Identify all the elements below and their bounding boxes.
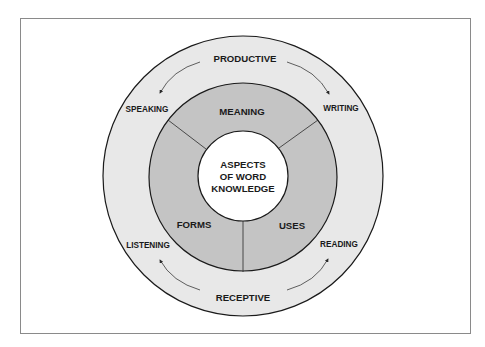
listening-label: LISTENING <box>126 241 170 250</box>
segment-meaning-label: MEANING <box>219 106 264 117</box>
receptive-label: RECEPTIVE <box>216 292 271 303</box>
center-line-2: OF WORD <box>220 171 266 182</box>
speaking-label: SPEAKING <box>126 105 169 114</box>
segment-forms-label: FORMS <box>177 219 212 230</box>
word-knowledge-diagram: ASPECTS OF WORD KNOWLEDGE MEANING FORMS … <box>0 0 485 347</box>
segment-uses-label: USES <box>279 220 306 231</box>
writing-label: WRITING <box>323 104 358 113</box>
reading-label: READING <box>320 240 358 249</box>
productive-label: PRODUCTIVE <box>214 53 277 64</box>
center-line-3: KNOWLEDGE <box>211 183 275 194</box>
center-line-1: ASPECTS <box>220 159 266 170</box>
